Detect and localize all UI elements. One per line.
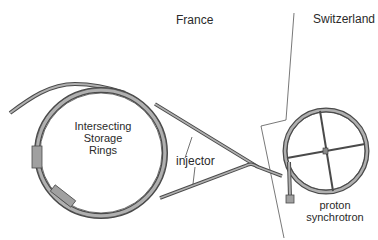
label-isr-line2: Storage — [70, 132, 136, 144]
label-isr-line1: Intersecting — [70, 120, 136, 132]
national-border-line — [261, 13, 294, 238]
proton-synchrotron-ring — [285, 110, 367, 203]
label-ps-line1: proton — [302, 199, 368, 211]
isr-intersection-block — [32, 146, 42, 168]
injector-lines — [155, 104, 282, 198]
label-switzerland: Switzerland — [313, 13, 375, 25]
label-france: France — [176, 14, 213, 26]
ps-ejection-block — [286, 195, 294, 203]
label-ps-line2: synchrotron — [302, 211, 368, 223]
label-isr-line3: Rings — [70, 144, 136, 156]
label-injector: injector — [176, 155, 215, 167]
label-proton-synchrotron: proton synchrotron — [302, 199, 368, 223]
label-isr: Intersecting Storage Rings — [70, 120, 136, 156]
diagram-canvas: France Switzerland Intersecting Storage … — [0, 0, 378, 240]
